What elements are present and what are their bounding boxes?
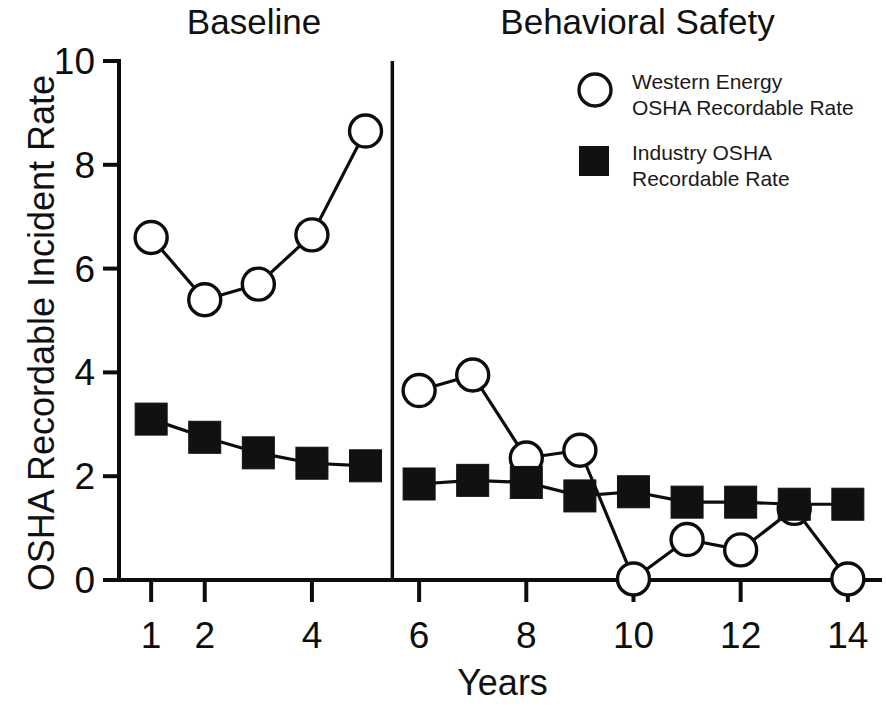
data-point-0-1 [135, 221, 167, 253]
data-point-1-5 [350, 450, 382, 482]
data-point-1-8 [510, 466, 542, 498]
x-tick-label-14: 14 [827, 615, 868, 656]
x-axis-title: Years [119, 662, 886, 704]
phase-title-baseline: Baseline [119, 2, 389, 42]
y-tick-label-8: 8 [74, 145, 95, 186]
data-point-1-1 [135, 403, 167, 435]
data-point-0-10 [617, 563, 649, 595]
data-point-1-14 [832, 488, 864, 520]
data-point-1-9 [564, 480, 596, 512]
x-tick-label-6: 6 [409, 615, 430, 656]
data-point-1-3 [242, 437, 274, 469]
x-tick-label-4: 4 [302, 615, 323, 656]
data-point-0-4 [296, 219, 328, 251]
x-tick-label-8: 8 [516, 615, 537, 656]
data-point-0-11 [671, 524, 703, 556]
x-tick-label-10: 10 [613, 615, 654, 656]
data-point-0-14 [832, 563, 864, 595]
x-tick-label-2: 2 [194, 615, 215, 656]
data-point-1-4 [296, 447, 328, 479]
y-tick-label-4: 4 [74, 352, 95, 393]
y-tick-label-0: 0 [74, 560, 95, 601]
data-point-0-5 [350, 115, 382, 147]
data-point-1-12 [725, 486, 757, 518]
data-point-1-2 [189, 421, 221, 453]
open-circle-marker-icon [570, 68, 632, 112]
legend-item-industry: Industry OSHA Recordable Rate [570, 139, 882, 192]
data-point-1-11 [671, 486, 703, 518]
legend-label-industry: Industry OSHA Recordable Rate [632, 139, 790, 192]
data-point-0-2 [189, 284, 221, 316]
legend-item-western-energy: Western Energy OSHA Recordable Rate [570, 68, 882, 121]
data-point-1-10 [617, 476, 649, 508]
phase-title-behavioral: Behavioral Safety [389, 2, 886, 42]
filled-square-marker-icon [570, 139, 632, 183]
data-point-0-12 [725, 534, 757, 566]
y-axis-title: OSHA Recordable Incident Rate [21, 53, 63, 613]
chart-legend: Western Energy OSHA Recordable Rate Indu… [570, 68, 882, 210]
data-point-1-6 [403, 468, 435, 500]
y-tick-label-2: 2 [74, 456, 95, 497]
data-point-0-6 [403, 375, 435, 407]
data-point-1-7 [457, 464, 489, 496]
data-point-0-7 [457, 359, 489, 391]
x-tick-label-1: 1 [141, 615, 162, 656]
chart-figure: 024681012468101214 Baseline Behavioral S… [0, 0, 886, 713]
data-point-0-9 [564, 434, 596, 466]
legend-label-western-energy: Western Energy OSHA Recordable Rate [632, 68, 854, 121]
x-tick-label-12: 12 [720, 615, 761, 656]
data-point-1-13 [778, 488, 810, 520]
y-tick-label-6: 6 [74, 249, 95, 290]
data-point-0-3 [242, 268, 274, 300]
